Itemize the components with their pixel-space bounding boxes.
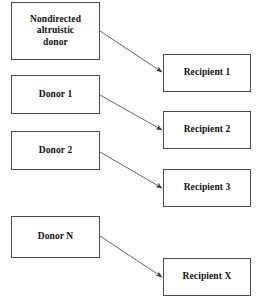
node-label: Nondirected altruistic donor bbox=[28, 14, 83, 49]
donor-box-donor-n[interactable]: Donor N bbox=[11, 216, 100, 258]
recipient-box-recipient-x[interactable]: Recipient X bbox=[163, 258, 251, 296]
recipient-box-recipient-1[interactable]: Recipient 1 bbox=[163, 54, 251, 92]
node-label: Donor 2 bbox=[37, 145, 75, 157]
arrow-altruistic-to-recipient-1 bbox=[100, 31, 162, 72]
recipient-box-recipient-2[interactable]: Recipient 2 bbox=[163, 111, 251, 149]
arrow-donor-1-to-recipient-2 bbox=[100, 95, 162, 130]
node-label: Recipient 3 bbox=[182, 182, 233, 194]
donor-chain-diagram: Nondirected altruistic donorDonor 1Donor… bbox=[0, 0, 262, 307]
node-label: Recipient 1 bbox=[182, 67, 233, 79]
arrow-donor-2-to-recipient-3 bbox=[100, 152, 162, 188]
donor-box-donor-2[interactable]: Donor 2 bbox=[11, 131, 100, 170]
arrow-donor-n-to-recipient-x bbox=[100, 236, 162, 277]
node-label: Donor 1 bbox=[37, 89, 75, 101]
node-label: Donor N bbox=[36, 231, 76, 243]
donor-box-nondirected-altruistic-donor[interactable]: Nondirected altruistic donor bbox=[11, 2, 100, 60]
donor-box-donor-1[interactable]: Donor 1 bbox=[11, 75, 100, 114]
node-label: Recipient X bbox=[181, 271, 234, 283]
recipient-box-recipient-3[interactable]: Recipient 3 bbox=[163, 169, 251, 207]
node-label: Recipient 2 bbox=[182, 124, 233, 136]
